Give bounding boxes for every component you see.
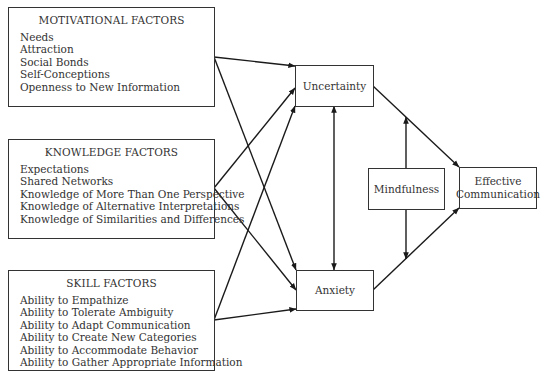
factor-item: Knowledge of Similarities and Difference… [20,213,214,225]
skill-factors-title: SKILL FACTORS [20,277,203,289]
effective-communication-label-line1: Effective [475,175,522,188]
factor-item: Self-Conceptions [20,68,214,80]
factor-item: Knowledge of More Than One Perspective [20,188,214,200]
factor-item: Ability to Empathize [20,294,214,306]
knowledge-factors-box: KNOWLEDGE FACTORS Expectations Shared Ne… [8,139,215,239]
edge-skill-anxiety [214,309,296,320]
skill-factors-box: SKILL FACTORS Ability to Empathize Abili… [8,270,215,371]
factor-item: Knowledge of Alternative Interpretations [20,200,214,212]
uncertainty-node: Uncertainty [295,65,374,107]
anxiety-label: Anxiety [315,284,355,297]
edge-uncertainty-effective [373,86,459,167]
effective-communication-label-line2: Communication [456,188,540,201]
edge-anxiety-effective [373,208,459,290]
factor-item: Openness to New Information [20,81,214,93]
skill-factors-list: Ability to Empathize Ability to Tolerate… [20,294,214,368]
factor-item: Social Bonds [20,56,214,68]
edge-motivational-uncertainty [214,57,295,66]
factor-item: Ability to Accommodate Behavior [20,344,214,356]
anxiety-node: Anxiety [296,270,374,311]
factor-item: Needs [20,31,214,43]
factor-item: Ability to Gather Appropriate Informatio… [20,356,214,368]
knowledge-factors-list: Expectations Shared Networks Knowledge o… [20,163,214,225]
factor-item: Shared Networks [20,175,214,187]
factor-item: Ability to Create New Categories [20,331,214,343]
uncertainty-label: Uncertainty [303,80,366,93]
factor-item: Ability to Adapt Communication [20,319,214,331]
motivational-factors-title: MOTIVATIONAL FACTORS [20,14,203,26]
factor-item: Attraction [20,43,214,55]
motivational-factors-list: Needs Attraction Social Bonds Self-Conce… [20,31,214,93]
factor-item: Ability to Tolerate Ambiguity [20,306,214,318]
knowledge-factors-title: KNOWLEDGE FACTORS [20,146,203,158]
factor-item: Expectations [20,163,214,175]
mindfulness-node: Mindfulness [368,168,445,210]
motivational-factors-box: MOTIVATIONAL FACTORS Needs Attraction So… [8,7,215,107]
effective-communication-node: Effective Communication [459,167,537,209]
mindfulness-label: Mindfulness [374,183,439,196]
